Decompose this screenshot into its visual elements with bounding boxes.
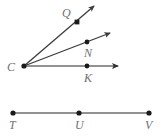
point-label-k: K (84, 72, 92, 84)
point-dot-k (85, 64, 90, 69)
ray-cn (24, 33, 110, 66)
point-label-c: C (7, 61, 15, 73)
point-dot-v (146, 110, 151, 115)
point-label-q: Q (62, 7, 71, 19)
point-label-v: V (145, 119, 152, 131)
point-label-u: U (75, 119, 84, 131)
point-dot-c (21, 63, 26, 68)
point-dot-t (10, 110, 15, 115)
point-label-t: T (9, 119, 16, 131)
geometry-figure: C Q N K T U V (0, 0, 165, 140)
point-dot-n (85, 40, 90, 45)
point-dot-q (75, 20, 80, 25)
point-label-n: N (84, 47, 92, 59)
point-dot-u (76, 110, 81, 115)
